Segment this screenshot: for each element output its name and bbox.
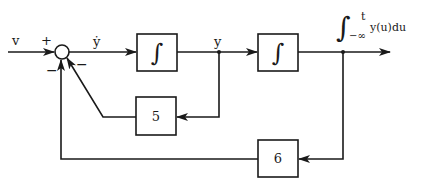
gain-value-6: 6 — [274, 151, 282, 166]
inner-feedback-line — [177, 52, 219, 117]
block-diagram: v + − − ẏ ∫ y ∫ ∫ t −∞ y(u)du 5 6 — [0, 0, 429, 189]
summing-junction — [55, 45, 69, 59]
plus-sign: + — [41, 33, 52, 48]
gain-block-6: 6 — [258, 140, 298, 177]
integrand: y(u)du — [369, 21, 406, 34]
ydot-label: ẏ — [92, 34, 101, 49]
lower-limit: −∞ — [349, 30, 366, 41]
input-label: v — [11, 33, 20, 48]
output-label: ∫ t −∞ y(u)du — [336, 10, 406, 44]
gain-value-5: 5 — [152, 109, 160, 124]
y-label: y — [213, 34, 222, 49]
integral-icon: ∫ — [272, 39, 285, 67]
integrator-block-2: ∫ — [258, 34, 298, 71]
integral-icon: ∫ — [151, 39, 164, 67]
integrator-block-1: ∫ — [137, 34, 177, 71]
outer-feedback-line — [299, 52, 343, 159]
gain-block-5: 5 — [136, 97, 176, 135]
minus-sign-outer: − — [46, 62, 58, 78]
upper-limit: t — [361, 10, 366, 23]
minus-sign-inner: − — [76, 56, 88, 72]
